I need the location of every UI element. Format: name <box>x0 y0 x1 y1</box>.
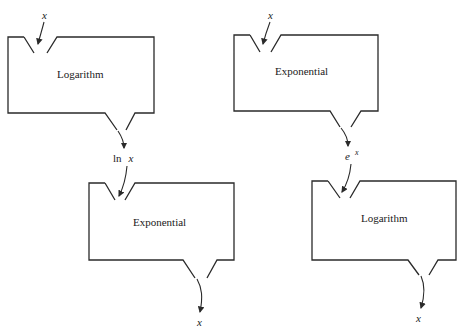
function-machine-diagram: x Logarithm ln x Exponential x x Exponen… <box>0 0 465 330</box>
logarithm-machine-label: Logarithm <box>57 68 104 80</box>
left-mid-arrow-1 <box>118 131 124 148</box>
exponential-machine-bottom-left <box>89 183 234 278</box>
ln-x-label: ln x <box>113 148 134 165</box>
e-x-label: e x <box>345 146 359 163</box>
logarithm-machine-bottom-right <box>312 181 456 275</box>
left-input-arrow <box>38 22 44 44</box>
right-output-arrow <box>421 276 424 308</box>
left-input-label: x <box>41 9 47 21</box>
logarithm-machine-label-2: Logarithm <box>361 212 408 224</box>
left-output-arrow <box>197 279 202 312</box>
exponential-machine-label: Exponential <box>133 216 186 228</box>
left-chain: x Logarithm ln x Exponential x <box>8 9 234 328</box>
right-mid-arrow-2 <box>342 164 351 192</box>
logarithm-machine-top-left <box>8 37 154 130</box>
left-mid-arrow-2 <box>119 166 127 196</box>
right-mid-arrow-1 <box>341 128 348 146</box>
right-input-arrow <box>263 22 270 44</box>
left-output-label: x <box>196 316 202 328</box>
right-chain: x Exponential e x Logarithm x <box>234 9 456 324</box>
right-input-label: x <box>267 9 273 21</box>
exponential-machine-top-right <box>234 35 378 127</box>
right-output-label: x <box>415 312 421 324</box>
exponential-machine-label-2: Exponential <box>275 65 328 77</box>
